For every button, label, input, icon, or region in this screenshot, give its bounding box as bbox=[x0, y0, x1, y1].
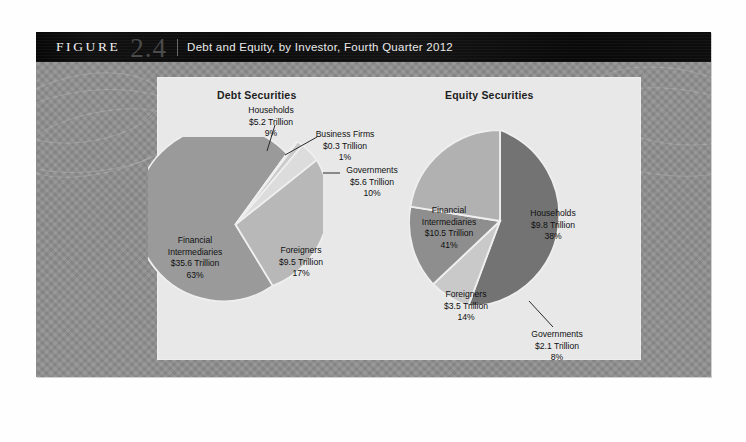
debt-households-amount: $5.2 Trillion bbox=[225, 117, 317, 129]
equity-households-percent: 38% bbox=[507, 231, 599, 243]
debt-business-amount: $0.3 Trillion bbox=[297, 141, 393, 153]
debt-business-name: Business Firms bbox=[297, 129, 393, 141]
debt-foreigners-percent: 17% bbox=[257, 268, 345, 280]
equity-governments-amount: $2.1 Trillion bbox=[509, 341, 605, 353]
equity-financial-amount: $10.5 Trillion bbox=[397, 228, 501, 240]
debt-label-financial-intermediaries: Financial Intermediaries $35.6 Trillion … bbox=[143, 235, 247, 281]
debt-financial-amount: $35.6 Trillion bbox=[143, 258, 247, 270]
debt-business-percent: 1% bbox=[297, 152, 393, 164]
equity-financial-name-1: Financial bbox=[397, 205, 501, 217]
figure-header-content: FIGURE 2.4 Debt and Equity, by Investor,… bbox=[56, 32, 453, 62]
debt-label-business-firms: Business Firms $0.3 Trillion 1% bbox=[297, 129, 393, 164]
equity-label-households: Households $9.8 Trillion 38% bbox=[507, 208, 599, 243]
figure-number: 2.4 bbox=[130, 35, 167, 62]
equity-foreigners-amount: $3.5 Trillion bbox=[420, 301, 512, 313]
debt-chart-title: Debt Securities bbox=[217, 89, 296, 101]
equity-households-amount: $9.8 Trillion bbox=[507, 220, 599, 232]
equity-governments-name: Governments bbox=[509, 329, 605, 341]
debt-label-foreigners: Foreigners $9.5 Trillion 17% bbox=[257, 245, 345, 280]
debt-financial-name-1: Financial bbox=[143, 235, 247, 247]
debt-governments-amount: $5.6 Trillion bbox=[325, 177, 419, 189]
figure-title: Debt and Equity, by Investor, Fourth Qua… bbox=[187, 41, 453, 53]
debt-governments-percent: 10% bbox=[325, 188, 419, 200]
figure-header-bar: FIGURE 2.4 Debt and Equity, by Investor,… bbox=[36, 32, 711, 62]
equity-foreigners-percent: 14% bbox=[420, 312, 512, 324]
equity-label-foreigners: Foreigners $3.5 Trillion 14% bbox=[420, 289, 512, 324]
figure-word: FIGURE bbox=[56, 39, 120, 55]
debt-households-name: Households bbox=[225, 105, 317, 117]
equity-chart-title: Equity Securities bbox=[445, 89, 534, 101]
debt-foreigners-name: Foreigners bbox=[257, 245, 345, 257]
debt-label-governments: Governments $5.6 Trillion 10% bbox=[325, 165, 419, 200]
equity-label-financial-intermediaries: Financial Intermediaries $10.5 Trillion … bbox=[397, 205, 501, 251]
equity-financial-percent: 41% bbox=[397, 240, 501, 252]
figure-page: FIGURE 2.4 Debt and Equity, by Investor,… bbox=[0, 0, 746, 442]
equity-label-governments: Governments $2.1 Trillion 8% bbox=[509, 329, 605, 364]
equity-foreigners-name: Foreigners bbox=[420, 289, 512, 301]
equity-governments-percent: 8% bbox=[509, 352, 605, 364]
equity-financial-name-2: Intermediaries bbox=[397, 217, 501, 229]
chart-card: Debt Securities Equity Securities bbox=[157, 77, 641, 360]
debt-foreigners-amount: $9.5 Trillion bbox=[257, 257, 345, 269]
debt-financial-percent: 63% bbox=[143, 270, 247, 282]
debt-financial-name-2: Intermediaries bbox=[143, 247, 247, 259]
equity-households-name: Households bbox=[507, 208, 599, 220]
debt-governments-name: Governments bbox=[325, 165, 419, 177]
header-divider bbox=[177, 39, 178, 56]
